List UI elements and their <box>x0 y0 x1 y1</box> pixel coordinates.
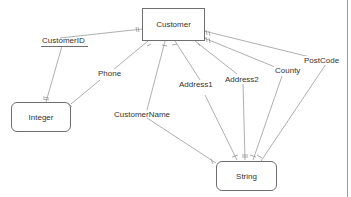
edge-address1-customer <box>175 41 200 80</box>
attribute-address2[interactable]: Address2 <box>224 75 260 84</box>
attribute-county[interactable]: County <box>274 66 301 75</box>
attribute-postcode[interactable]: PostCode <box>303 56 340 65</box>
edge-address2-string <box>243 83 245 160</box>
edge-county-string <box>253 76 282 160</box>
edge-county-customer <box>204 38 275 67</box>
type-string[interactable]: String <box>216 161 277 191</box>
edge-address1-string <box>205 95 237 160</box>
attribute-customerid[interactable]: CustomerID <box>41 36 88 47</box>
type-string-label: String <box>236 172 257 181</box>
edge-phone-integer <box>71 80 100 104</box>
edge-customerid-integer <box>46 46 62 102</box>
attribute-customername[interactable]: CustomerName <box>113 110 171 119</box>
entity-customer[interactable]: Customer <box>142 8 205 41</box>
attribute-address1[interactable]: Address1 <box>178 80 214 89</box>
entity-customer-label: Customer <box>156 20 191 29</box>
edge-postcode-string <box>261 64 326 161</box>
edge-phone-customer <box>113 41 148 70</box>
type-integer[interactable]: Integer <box>11 102 71 132</box>
canvas-right-border <box>347 0 348 197</box>
edge-address2-customer <box>195 41 237 74</box>
attribute-phone[interactable]: Phone <box>97 69 122 78</box>
edge-postcode-customer <box>204 31 310 57</box>
edge-customername-string <box>147 118 216 163</box>
type-integer-label: Integer <box>29 113 54 122</box>
edge-customername-customer <box>147 41 165 110</box>
diagram-canvas: Customer Integer String CustomerID Phone… <box>0 0 351 197</box>
